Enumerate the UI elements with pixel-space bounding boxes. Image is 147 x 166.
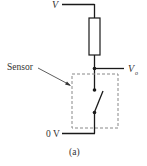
supply-label: V: [52, 0, 60, 10]
caption: (a): [69, 147, 80, 158]
sensor-label: Sensor: [7, 62, 34, 72]
ground-label: 0 V: [46, 129, 60, 139]
output-subscript: o: [135, 70, 138, 76]
sensor-pointer: [38, 68, 70, 85]
resistor: [89, 18, 100, 55]
switch-upper-contact: [93, 88, 97, 92]
sensor-pointer-arrowhead: [65, 82, 71, 87]
switch-lever: [95, 91, 104, 112]
junction-dot: [93, 67, 97, 71]
circuit-diagram: V V o Sensor 0 V (a): [0, 0, 147, 166]
